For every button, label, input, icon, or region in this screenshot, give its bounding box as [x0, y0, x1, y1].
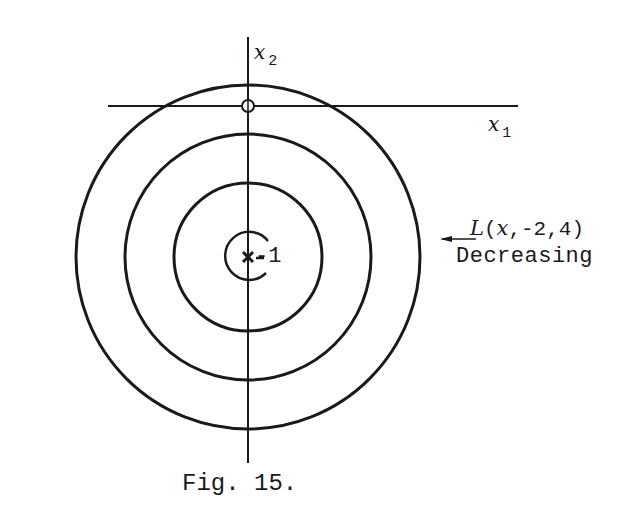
decreasing-label: Decreasing: [456, 244, 593, 269]
figure-caption: Fig. 15.: [182, 470, 297, 497]
x2-axis-label: x2: [254, 40, 277, 64]
center-value-label: -1: [263, 244, 289, 269]
function-annotation: L(x,-2,4): [470, 216, 584, 241]
x1-axis-label: x1: [488, 112, 511, 136]
